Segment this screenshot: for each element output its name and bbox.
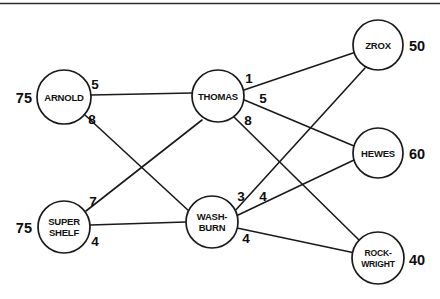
- edge-washburn-rockwright[interactable]: [237, 228, 355, 253]
- node-arnold[interactable]: ARNOLD: [37, 70, 91, 124]
- edge-arnold-washburn[interactable]: [85, 115, 190, 212]
- edge-supershelf-thomas[interactable]: [86, 120, 202, 211]
- node-washburn-label-line2: BURN: [199, 222, 226, 233]
- edge-arnold-thomas[interactable]: [91, 93, 192, 95]
- node-supershelf[interactable]: SUPER SHELF: [38, 201, 90, 253]
- demand-value-zrox: 50: [409, 38, 425, 54]
- edge-weight-thomas-rockwright: 8: [244, 113, 252, 128]
- edge-thomas-hewes[interactable]: [242, 99, 354, 146]
- edge-weight-arnold-washburn: 8: [88, 112, 96, 127]
- node-hewes-label: HEWES: [361, 148, 395, 159]
- node-supershelf-label-line2: SHELF: [49, 227, 80, 238]
- node-zrox[interactable]: ZROX: [353, 20, 403, 70]
- node-supershelf-label-line1: SUPER: [48, 216, 80, 227]
- edge-weight-washburn-hewes: 4: [259, 189, 267, 204]
- edge-weight-supershelf-washburn: 4: [91, 234, 99, 249]
- edge-thomas-rockwright[interactable]: [234, 117, 360, 241]
- edge-weight-supershelf-thomas: 7: [89, 194, 97, 209]
- node-rockwright[interactable]: ROCK- WRIGHT: [352, 232, 404, 284]
- demand-value-hewes: 60: [409, 146, 425, 162]
- node-rockwright-circle[interactable]: [352, 232, 404, 284]
- node-zrox-label: ZROX: [365, 40, 391, 51]
- edge-weight-thomas-hewes: 5: [259, 91, 267, 106]
- transportation-network-diagram: ARNOLD SUPER SHELF THOMAS WASH- BURN: [0, 0, 440, 299]
- node-hewes[interactable]: HEWES: [353, 128, 403, 178]
- node-rockwright-label-line1: ROCK-: [364, 248, 392, 258]
- diagram-canvas: ARNOLD SUPER SHELF THOMAS WASH- BURN: [0, 0, 440, 299]
- node-thomas-label: THOMAS: [198, 91, 238, 102]
- demand-value-rockwright: 40: [409, 252, 425, 268]
- node-thomas[interactable]: THOMAS: [192, 70, 244, 122]
- node-washburn-label-line1: WASH-: [197, 211, 228, 222]
- node-arnold-label: ARNOLD: [44, 92, 84, 103]
- edge-weight-washburn-rockwright: 4: [242, 231, 250, 246]
- edge-weight-arnold-thomas: 5: [91, 77, 99, 92]
- supply-value-arnold: 75: [16, 90, 32, 106]
- edge-thomas-zrox[interactable]: [241, 52, 356, 91]
- edge-weight-thomas-zrox: 1: [245, 71, 253, 86]
- node-rockwright-label-line2: WRIGHT: [361, 259, 396, 269]
- edge-supershelf-washburn[interactable]: [90, 222, 186, 225]
- supply-value-supershelf: 75: [16, 220, 32, 236]
- edge-washburn-hewes[interactable]: [236, 160, 354, 216]
- node-washburn[interactable]: WASH- BURN: [186, 196, 238, 248]
- edge-weight-washburn-zrox: 3: [237, 189, 245, 204]
- edge-washburn-zrox[interactable]: [233, 68, 365, 213]
